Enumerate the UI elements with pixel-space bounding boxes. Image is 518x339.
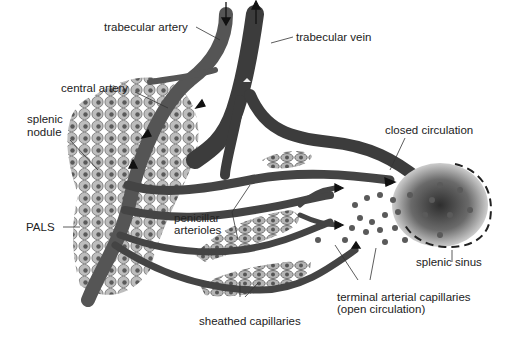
label-splenic-nodule-line1: splenic	[27, 113, 63, 126]
label-sheathed-capillaries: sheathed capillaries	[199, 315, 301, 328]
label-terminal-capillaries-line2: (open circulation)	[337, 303, 425, 316]
label-pals: PALS	[26, 221, 55, 234]
label-central-artery: central artery	[61, 82, 128, 95]
label-trabecular-vein: trabecular vein	[296, 31, 371, 44]
label-splenic-sinus: splenic sinus	[416, 256, 482, 269]
label-penicillar-arterioles-line2: arterioles	[174, 224, 221, 237]
splenic-circulation-diagram	[0, 0, 518, 339]
label-splenic-nodule-line2: nodule	[27, 126, 62, 139]
label-closed-circulation: closed circulation	[385, 124, 473, 137]
label-trabecular-artery: trabecular artery	[104, 21, 188, 34]
